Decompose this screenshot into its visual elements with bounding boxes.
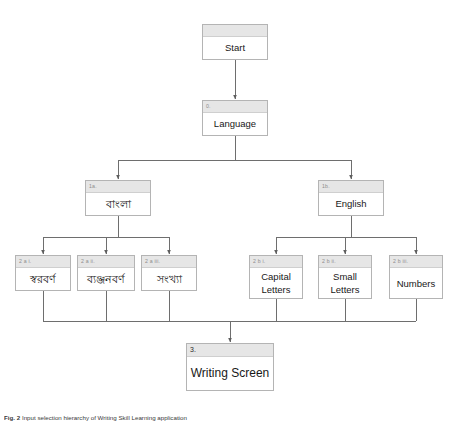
node-sankhya: 2 a iii. সংখ্যা [141, 255, 197, 291]
node-bangla-tag: 1a. [86, 181, 150, 193]
node-start-label: Start [203, 37, 267, 59]
node-language-tag: 0. [203, 101, 267, 113]
node-english: 1b. English [318, 180, 384, 216]
node-small-letters: 2 b ii. Small Letters [318, 255, 372, 299]
node-writing-screen-label: Writing Screen [187, 357, 273, 390]
figure-caption-label: Fig. 2 [4, 414, 20, 421]
node-capital-letters-label: Capital Letters [250, 268, 302, 298]
node-writing-screen-tag: 3. [187, 344, 273, 357]
node-start: Start [202, 24, 268, 60]
node-sankhya-tag: 2 a iii. [142, 256, 196, 268]
node-swarabarna-label: স্বরবর্ণ [16, 268, 70, 290]
node-small-letters-tag: 2 b ii. [319, 256, 371, 268]
node-writing-screen: 3. Writing Screen [186, 343, 274, 391]
node-start-tag [203, 25, 267, 37]
node-swarabarna-tag: 2 a i. [16, 256, 70, 268]
node-english-label: English [319, 193, 383, 215]
node-numbers: 2 b iii. Numbers [389, 255, 443, 299]
flowchart-connectors [0, 0, 461, 400]
node-bangla: 1a. বাংলা [85, 180, 151, 216]
node-capital-letters: 2 b i. Capital Letters [249, 255, 303, 299]
node-language-label: Language [203, 113, 267, 135]
node-swarabarna: 2 a i. স্বরবর্ণ [15, 255, 71, 291]
node-english-tag: 1b. [319, 181, 383, 193]
node-language: 0. Language [202, 100, 268, 136]
node-byanjanbarna-tag: 2 a ii. [78, 256, 134, 268]
node-numbers-label: Numbers [390, 268, 442, 298]
node-sankhya-label: সংখ্যা [142, 268, 196, 290]
node-numbers-tag: 2 b iii. [390, 256, 442, 268]
figure-caption-text: Input selection hierarchy of Writing Ski… [22, 414, 187, 421]
node-capital-letters-tag: 2 b i. [250, 256, 302, 268]
flowchart-diagram: Start 0. Language 1a. বাংলা 1b. English … [0, 0, 461, 400]
node-byanjanbarna: 2 a ii. ব্যঞ্জনবর্ণ [77, 255, 135, 291]
node-byanjanbarna-label: ব্যঞ্জনবর্ণ [78, 268, 134, 290]
node-bangla-label: বাংলা [86, 193, 150, 215]
node-small-letters-label: Small Letters [319, 268, 371, 298]
figure-caption: Fig. 2 Input selection hierarchy of Writ… [4, 414, 444, 422]
